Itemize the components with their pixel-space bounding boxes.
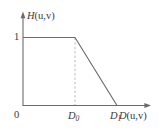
x-axis-label-args: (u,v): [127, 110, 147, 121]
x-tick-label-d1: D1: [110, 111, 121, 122]
x-axis-label: D(u,v): [119, 111, 147, 122]
filter-response-figure: H(u,v) D(u,v) 1 0 D0 D1: [0, 0, 163, 133]
x-axis: [23, 103, 152, 108]
y-axis-label-args: (u,v): [35, 10, 55, 21]
y-axis-label: H(u,v): [27, 11, 55, 22]
y-axis-arrow-icon: [21, 12, 26, 19]
d1-subscript: 1: [118, 114, 122, 123]
d0-subscript: 0: [76, 114, 80, 123]
d0-base: D: [68, 110, 76, 121]
y-axis: [21, 12, 26, 106]
y-axis-label-base: H: [27, 10, 35, 21]
y-tick-label-one: 1: [14, 32, 19, 43]
response-curve: [23, 38, 117, 106]
d1-base: D: [110, 110, 118, 121]
x-tick-label-d0: D0: [68, 111, 79, 122]
origin-label: 0: [14, 110, 19, 121]
x-axis-arrow-icon: [144, 103, 151, 108]
